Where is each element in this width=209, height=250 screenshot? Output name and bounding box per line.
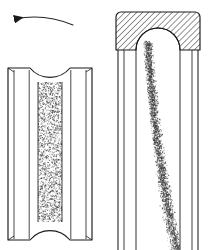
grooved-roller-front-view bbox=[8, 68, 92, 240]
roller-groove-stipple bbox=[37, 81, 62, 222]
figure-container bbox=[0, 0, 209, 250]
technical-illustration bbox=[0, 0, 209, 250]
